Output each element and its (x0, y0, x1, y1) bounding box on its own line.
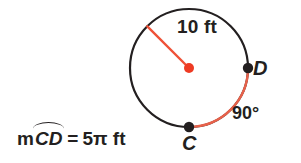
arc-length-value: 5π ft (82, 129, 125, 148)
point-c-dot (184, 122, 194, 132)
arc-endpoints-label: CD (35, 128, 62, 149)
central-angle-label: 90° (232, 104, 259, 122)
radius-length-label: 10 ft (177, 17, 217, 36)
point-label-d: D (253, 58, 267, 78)
arc-overbar-icon (33, 122, 64, 130)
arc-name-with-overbar: CD (34, 129, 63, 148)
center-dot (184, 63, 194, 73)
point-d-dot (243, 63, 253, 73)
arc-measure-prefix: m (17, 129, 34, 148)
point-label-c: C (182, 133, 196, 153)
geometry-figure-circle: 10 ft 90° D C m CD = 5π ft (0, 0, 301, 163)
arc-measure-equation: m CD = 5π ft (17, 129, 126, 148)
equals-sign: = (67, 129, 78, 148)
